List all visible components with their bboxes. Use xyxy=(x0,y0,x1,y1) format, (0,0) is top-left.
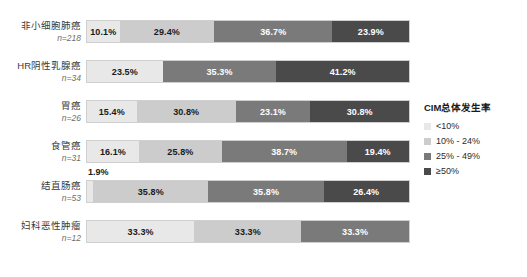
legend-color-swatch-icon xyxy=(424,138,431,145)
category-label: 胃癌n=26 xyxy=(0,97,86,124)
chart-row: 食管癌n=3116.1%25.8%38.7%19.4% xyxy=(0,137,410,175)
legend-label: 25% - 49% xyxy=(436,151,480,161)
legend-label: 10% - 24% xyxy=(436,136,480,146)
stacked-bar[interactable]: 15.4%30.8%23.1%30.8% xyxy=(86,100,410,123)
bar-segment[interactable]: 35.8% xyxy=(93,181,208,202)
stacked-bar[interactable]: 23.5%35.3%41.2% xyxy=(86,60,410,83)
stacked-bar[interactable]: 10.1%29.4%36.7%23.9% xyxy=(86,20,410,43)
chart-row: 胃癌n=2615.4%30.8%23.1%30.8% xyxy=(0,97,410,135)
category-name: HR阴性乳腺癌 xyxy=(0,60,81,72)
category-name: 结直肠癌 xyxy=(0,180,81,192)
bar-segment[interactable]: 16.1% xyxy=(87,141,139,162)
stacked-bar[interactable]: 35.8%35.8%26.4% xyxy=(86,180,410,203)
category-sample-size: n=26 xyxy=(0,112,81,124)
category-label: 结直肠癌n=53 xyxy=(0,177,86,204)
bar-wrapper: 33.3%33.3%33.3% xyxy=(86,217,410,255)
bar-segment[interactable]: 29.4% xyxy=(120,21,215,42)
bar-segment[interactable]: 35.8% xyxy=(208,181,323,202)
bar-segment[interactable]: 23.9% xyxy=(332,21,409,42)
stacked-bar[interactable]: 16.1%25.8%38.7%19.4% xyxy=(86,140,410,163)
bar-segment[interactable]: 10.1% xyxy=(87,21,120,42)
legend-color-swatch-icon xyxy=(424,123,431,130)
bar-segment[interactable]: 33.3% xyxy=(194,221,301,242)
chart-row: 结直肠癌n=5335.8%35.8%26.4%1.9% xyxy=(0,177,410,215)
legend-title: CIM总体发生率 xyxy=(424,100,524,114)
category-label: 食管癌n=31 xyxy=(0,137,86,164)
legend-label: ≥50% xyxy=(436,166,459,176)
plot-area: 非小细胞肺癌n=21810.1%29.4%36.7%23.9%HR阴性乳腺癌n=… xyxy=(0,0,410,277)
bar-segment[interactable]: 36.7% xyxy=(214,21,332,42)
bar-segment[interactable]: 23.5% xyxy=(87,61,163,82)
bar-segment[interactable]: 15.4% xyxy=(87,101,137,122)
bar-segment[interactable]: 41.2% xyxy=(276,61,409,82)
bar-segment[interactable]: 25.8% xyxy=(139,141,222,162)
chart-row: HR阴性乳腺癌n=3423.5%35.3%41.2% xyxy=(0,57,410,95)
stacked-bar[interactable]: 33.3%33.3%33.3% xyxy=(86,220,410,243)
chart-row: 妇科恶性肿瘤n=1233.3%33.3%33.3% xyxy=(0,217,410,255)
bar-segment[interactable]: 33.3% xyxy=(301,221,408,242)
chart-row: 非小细胞肺癌n=21810.1%29.4%36.7%23.9% xyxy=(0,17,410,55)
category-name: 胃癌 xyxy=(0,100,81,112)
bar-segment[interactable]: 38.7% xyxy=(222,141,347,162)
bar-segment[interactable]: 33.3% xyxy=(87,221,194,242)
bar-segment[interactable]: 30.8% xyxy=(137,101,236,122)
category-name: 非小细胞肺癌 xyxy=(0,20,81,32)
category-sample-size: n=218 xyxy=(0,32,81,44)
bar-wrapper: 23.5%35.3%41.2% xyxy=(86,57,410,95)
category-sample-size: n=34 xyxy=(0,72,81,84)
bar-segment[interactable]: 26.4% xyxy=(324,181,409,202)
legend-item-list: <10%10% - 24%25% - 49%≥50% xyxy=(424,121,524,176)
category-label: 非小细胞肺癌n=218 xyxy=(0,17,86,44)
chart-container: 非小细胞肺癌n=21810.1%29.4%36.7%23.9%HR阴性乳腺癌n=… xyxy=(0,0,527,277)
bar-segment[interactable]: 23.1% xyxy=(236,101,310,122)
bar-segment[interactable]: 35.3% xyxy=(163,61,277,82)
bar-segment[interactable]: 30.8% xyxy=(310,101,409,122)
category-name: 食管癌 xyxy=(0,140,81,152)
bar-wrapper: 10.1%29.4%36.7%23.9% xyxy=(86,17,410,55)
legend-item[interactable]: 25% - 49% xyxy=(424,151,524,161)
category-sample-size: n=53 xyxy=(0,192,81,204)
legend-color-swatch-icon xyxy=(424,153,431,160)
category-sample-size: n=12 xyxy=(0,232,81,244)
bar-wrapper: 16.1%25.8%38.7%19.4% xyxy=(86,137,410,175)
legend-item[interactable]: 10% - 24% xyxy=(424,136,524,146)
legend-label: <10% xyxy=(436,121,459,131)
category-name: 妇科恶性肿瘤 xyxy=(0,220,81,232)
bar-wrapper: 15.4%30.8%23.1%30.8% xyxy=(86,97,410,135)
chart-legend: CIM总体发生率 <10%10% - 24%25% - 49%≥50% xyxy=(424,100,524,181)
bar-wrapper: 35.8%35.8%26.4%1.9% xyxy=(86,177,410,215)
category-label: HR阴性乳腺癌n=34 xyxy=(0,57,86,84)
category-sample-size: n=31 xyxy=(0,152,81,164)
legend-item[interactable]: <10% xyxy=(424,121,524,131)
segment-callout-label: 1.9% xyxy=(88,167,109,177)
category-label: 妇科恶性肿瘤n=12 xyxy=(0,217,86,244)
legend-color-swatch-icon xyxy=(424,168,431,175)
legend-item[interactable]: ≥50% xyxy=(424,166,524,176)
bar-segment[interactable]: 19.4% xyxy=(347,141,409,162)
